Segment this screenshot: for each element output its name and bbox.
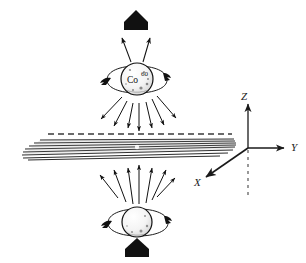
y-axis-label: Y [291, 141, 299, 153]
spin-arrowhead-left-bottom [101, 221, 112, 228]
emission-arrow-up-b3 [128, 168, 133, 204]
cobalt-60-source-bottom [101, 207, 172, 237]
diagram-canvas: Co 60 [0, 0, 306, 263]
cobalt-60-source-top: Co 60 [100, 63, 171, 95]
emission-arrow-down-7 [157, 96, 176, 118]
spin-arrowhead-right-bottom [164, 216, 172, 224]
emission-arrow-down-6 [152, 99, 164, 125]
emission-arrow-up-right [143, 38, 150, 62]
slab-line-8 [28, 156, 220, 160]
spin-arrowhead-left-top [100, 78, 111, 85]
spin-direction-arrow-up-top [124, 10, 148, 30]
detector-plane-slab [22, 134, 236, 160]
physics-figure: Co 60 [0, 0, 306, 263]
emission-arrow-down-3 [128, 103, 133, 128]
emission-arrow-up-b2 [114, 170, 126, 202]
emission-arrow-up-b1 [100, 175, 118, 198]
emission-arrow-down-2 [114, 101, 127, 126]
emission-arrow-up-b5 [146, 168, 152, 203]
z-axis-label: Z [241, 90, 248, 102]
emission-arrows-up-top [122, 38, 150, 62]
spin-direction-arrow-up-bottom [125, 238, 149, 257]
slab-highlight [135, 145, 139, 149]
emission-arrow-up-b7 [157, 178, 175, 197]
x-axis-label: X [193, 176, 202, 188]
nuclide-symbol-top: Co [127, 75, 138, 85]
spin-arrowhead-right-top [163, 73, 171, 81]
emission-arrows-down-top [101, 96, 176, 131]
x-axis-line [206, 148, 248, 177]
emission-arrow-up-left [122, 38, 131, 62]
emission-arrow-down-5 [146, 102, 152, 128]
nuclide-mass-number-top: 60 [141, 70, 149, 78]
emission-arrows-up-bottom [100, 165, 175, 204]
